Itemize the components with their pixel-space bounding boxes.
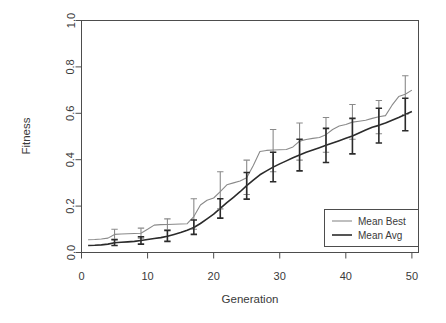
y-tick-label: 0.0 bbox=[65, 245, 77, 260]
x-tick-label: 20 bbox=[208, 270, 220, 282]
fitness-vs-generation-chart: 0.00.20.40.60.81.0 01020304050 Fitness G… bbox=[0, 0, 446, 323]
legend-label: Mean Avg bbox=[358, 230, 402, 241]
y-tick-label: 0.8 bbox=[65, 59, 77, 74]
x-tick-label: 30 bbox=[274, 270, 286, 282]
y-tick-label: 1.0 bbox=[65, 13, 77, 28]
y-axis-title: Fitness bbox=[20, 117, 32, 154]
x-tick-label: 0 bbox=[78, 270, 84, 282]
x-tick-label: 40 bbox=[340, 270, 352, 282]
y-tick-label: 0.2 bbox=[65, 198, 77, 213]
y-tick-label: 0.4 bbox=[65, 152, 77, 167]
y-tick-label: 0.6 bbox=[65, 106, 77, 121]
x-axis-title: Generation bbox=[222, 293, 279, 305]
chart-legend[interactable]: Mean BestMean Avg bbox=[325, 210, 419, 247]
plot-canvas: 0.00.20.40.60.81.0 01020304050 Fitness G… bbox=[0, 0, 446, 323]
legend-label: Mean Best bbox=[358, 216, 406, 227]
x-tick-label: 50 bbox=[406, 270, 418, 282]
x-tick-label: 10 bbox=[141, 270, 153, 282]
